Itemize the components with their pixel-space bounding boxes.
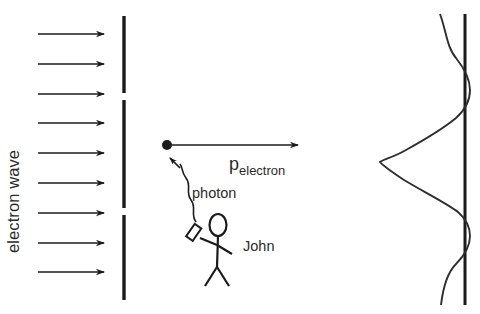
- john-right-arm: [217, 245, 232, 254]
- electron-particle-dot: [162, 140, 172, 150]
- momentum-symbol-text: p: [229, 154, 239, 174]
- diagram-svg: electron wave pelectron photon: [0, 0, 480, 314]
- john-torso: [217, 236, 218, 267]
- john-right-leg: [217, 267, 229, 286]
- momentum-symbol-label: pelectron: [229, 154, 285, 178]
- stick-figure-john: [186, 214, 232, 286]
- diffraction-intensity-curve: [380, 14, 470, 305]
- john-head: [210, 214, 227, 236]
- photon-label: photon: [192, 185, 236, 201]
- incoming-wave-arrows: [38, 34, 104, 272]
- john-left-leg: [205, 267, 217, 286]
- electron-wave-label: electron wave: [4, 150, 22, 253]
- figure-canvas: electron wave pelectron photon: [0, 0, 480, 314]
- john-left-arm: [200, 238, 217, 245]
- momentum-subscript-text: electron: [239, 163, 285, 178]
- john-label: John: [243, 238, 274, 254]
- flashlight-icon: [186, 224, 201, 241]
- electron-momentum-group: [162, 140, 298, 150]
- photon-arrow: [170, 158, 180, 168]
